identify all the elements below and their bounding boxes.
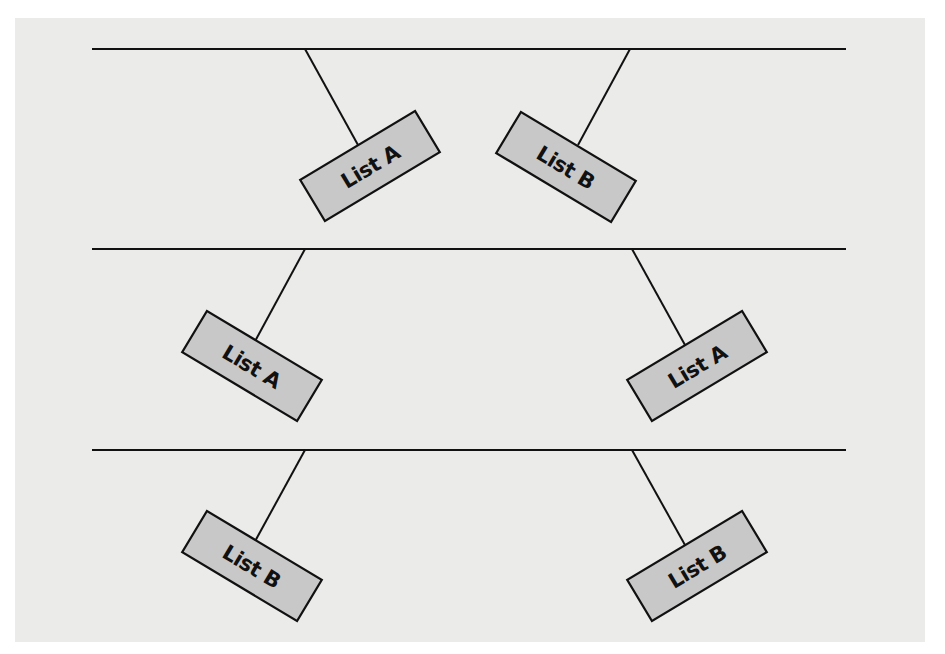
row-2-left-box: List A bbox=[182, 311, 322, 421]
row-2-left-connector bbox=[253, 249, 305, 345]
row-1: List A List B bbox=[92, 49, 846, 222]
row-3-right-connector bbox=[632, 450, 685, 545]
list-hanging-diagram: List A List B List A List A List B bbox=[0, 0, 945, 654]
row-3-left-box: List B bbox=[182, 511, 322, 621]
row-1-left-connector bbox=[305, 49, 358, 145]
row-2-right-connector bbox=[632, 249, 685, 345]
row-3: List B List B bbox=[92, 450, 846, 621]
row-2-right-box: List A bbox=[627, 311, 767, 421]
row-2: List A List A bbox=[92, 249, 846, 421]
row-1-right-connector bbox=[578, 49, 630, 145]
row-3-left-connector bbox=[253, 450, 305, 545]
row-1-right-box: List B bbox=[496, 112, 636, 222]
row-1-left-box: List A bbox=[300, 111, 440, 221]
row-3-right-box: List B bbox=[627, 511, 767, 621]
